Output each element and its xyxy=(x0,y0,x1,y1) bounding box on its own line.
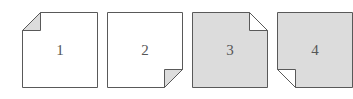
page-fold-bottom-right-icon xyxy=(107,12,183,88)
page-fold-bottom-left-icon xyxy=(277,12,353,88)
shape-item-4[interactable]: 4 xyxy=(277,12,353,88)
page-fold-triangle xyxy=(23,13,41,31)
page-fold-triangle xyxy=(165,70,183,88)
shape-item-1[interactable]: 1 xyxy=(22,12,98,88)
page-fold-triangle xyxy=(278,70,296,88)
shape-item-2[interactable]: 2 xyxy=(107,12,183,88)
page-fold-triangle xyxy=(250,13,268,31)
shape-item-3[interactable]: 3 xyxy=(192,12,268,88)
page-fold-top-left-icon xyxy=(22,12,98,88)
page-fold-top-right-icon xyxy=(192,12,268,88)
